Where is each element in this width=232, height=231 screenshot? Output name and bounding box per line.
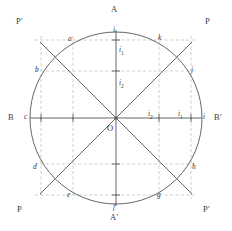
i2-horizontal-subscript: 2	[150, 114, 153, 120]
axis-label-top-A: A	[111, 5, 117, 14]
figure-canvas: A A' B B' P' P P P' O iakbjcidhegf i1i2i…	[0, 0, 232, 231]
center-point-O	[114, 116, 117, 119]
diagonal-label-bottom-right-P-prime: P'	[203, 205, 210, 214]
point-g-label: g	[157, 191, 161, 199]
i1-vertical-subscript: 1	[121, 50, 124, 56]
point-e-label: e	[67, 191, 70, 199]
point-i-right-label: i	[203, 113, 205, 121]
i1-vertical-label: i1	[119, 46, 124, 56]
i1-horizontal-label: i1	[178, 110, 183, 120]
point-c-label: c	[24, 113, 27, 121]
diagonal-label-top-right-P: P	[205, 17, 210, 26]
point-d-label: d	[33, 163, 37, 171]
point-b-label: b	[35, 66, 39, 74]
axis-label-bottom-A-prime: A'	[110, 213, 118, 222]
i1-horizontal-subscript: 1	[180, 114, 183, 120]
geometry-diagram	[0, 0, 232, 231]
axis-label-left-B: B	[8, 113, 14, 122]
center-label-O: O	[107, 124, 113, 133]
diagonal-label-bottom-left-P: P	[17, 205, 22, 214]
point-f-label: f	[113, 203, 115, 211]
point-j-label: j	[191, 66, 193, 74]
point-h-label: h	[192, 163, 196, 171]
point-i-top-label: i	[113, 26, 115, 34]
point-k-label: k	[158, 34, 161, 42]
point-a-label: a	[68, 35, 72, 43]
i2-vertical-label: i2	[119, 79, 124, 89]
diagonal-label-top-left-P-prime: P'	[16, 17, 23, 26]
i2-horizontal-label: i2	[148, 110, 153, 120]
axis-label-right-B-prime: B'	[214, 113, 222, 122]
i2-vertical-subscript: 2	[121, 83, 124, 89]
